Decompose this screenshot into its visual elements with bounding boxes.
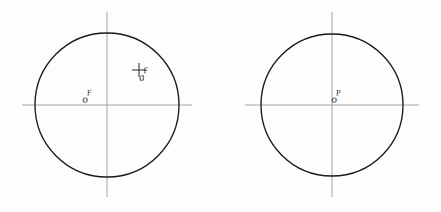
technical-drawing [0,0,441,212]
front-view-center-label-superscript: F [86,88,92,98]
profile-view-center-label-superscript: P [335,88,341,98]
front-view-group [22,12,192,197]
figure-canvas: oF aF oP [0,0,441,212]
profile-view-center-label: oP [330,89,342,106]
front-view-center-label: oF [81,89,93,106]
